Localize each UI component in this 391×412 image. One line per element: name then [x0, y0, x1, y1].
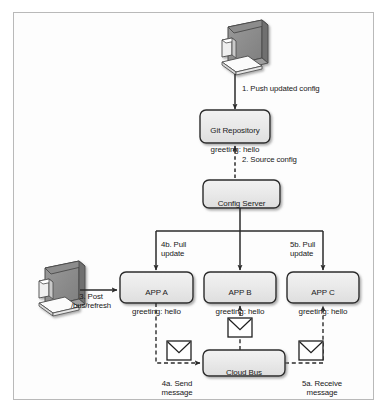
edge-label-step1: 1. Push updated config	[242, 84, 362, 93]
envelope-icon-left	[167, 341, 191, 360]
desktop-computer-icon-top	[222, 20, 268, 75]
node-app-b-shape	[204, 272, 276, 303]
node-app-a-shape	[120, 272, 193, 303]
edge-label-step5a: 5a. Receive message	[289, 379, 355, 397]
envelope-icon-center	[228, 318, 252, 337]
node-app-c-shape	[287, 272, 359, 303]
edge-label-step5b: 5b. Pull update	[290, 240, 338, 258]
edge-label-step4b: 4b. Pull update	[161, 240, 209, 258]
node-cloud-bus-shape	[203, 350, 285, 376]
node-git-repository-shape	[200, 110, 270, 143]
edge-label-step2: 2. Source config	[242, 155, 352, 164]
diagram-figure: Git Repository greeting: hello Config Se…	[0, 0, 391, 412]
edge-label-step4a: 4a. Send message	[147, 379, 207, 397]
envelope-icon-right	[299, 341, 323, 360]
diagram-canvas	[0, 0, 391, 412]
edge-label-step3: 3. Post /bus/refresh	[63, 292, 119, 310]
node-config-server-shape	[203, 180, 280, 208]
